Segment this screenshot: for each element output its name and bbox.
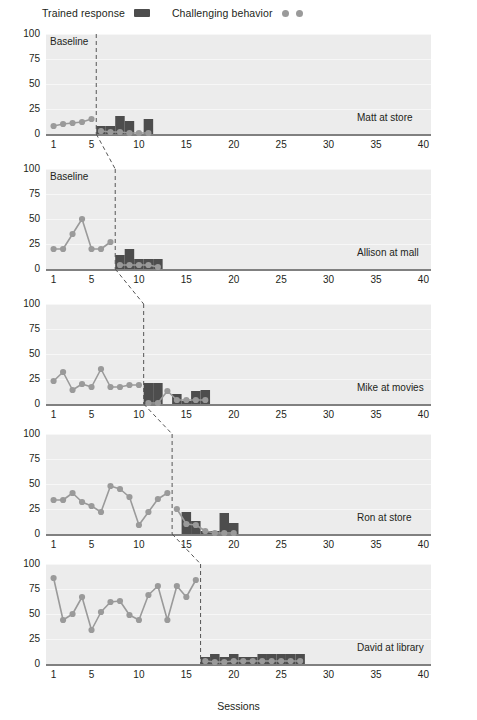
- point-baseline-challenging: [79, 119, 85, 125]
- x-tick-label: 40: [410, 670, 436, 680]
- point-baseline-challenging: [60, 369, 66, 375]
- x-tick-label: 35: [363, 670, 389, 680]
- point-baseline-challenging: [88, 384, 94, 390]
- y-tick-label: 100: [6, 559, 40, 569]
- x-tick-label: 40: [410, 410, 436, 420]
- x-tick-label: 5: [79, 140, 105, 150]
- x-tick-label: 5: [79, 540, 105, 550]
- y-tick-label: 0: [6, 129, 40, 139]
- y-tick-label: 100: [6, 429, 40, 439]
- y-tick-label: 75: [6, 54, 40, 64]
- panel-mike-at-movies: 02550751001510152025303540Mike at movies: [0, 296, 477, 431]
- x-tick-label: 35: [363, 275, 389, 285]
- y-tick-label: 75: [6, 584, 40, 594]
- point-baseline-challenging: [50, 575, 56, 581]
- x-tick-label: 10: [126, 540, 152, 550]
- x-tick-label: 15: [173, 140, 199, 150]
- x-tick-label: 1: [41, 140, 67, 150]
- point-baseline-challenging: [60, 497, 66, 503]
- point-baseline-challenging: [50, 123, 56, 129]
- point-intervention-challenging: [107, 129, 113, 135]
- x-axis-line: [46, 664, 431, 666]
- x-tick-label: 20: [221, 275, 247, 285]
- x-tick-label: 25: [268, 540, 294, 550]
- y-tick-label: 100: [6, 29, 40, 39]
- x-tick-label: 25: [268, 140, 294, 150]
- point-intervention-challenging: [164, 388, 170, 394]
- y-tick-label: 25: [6, 504, 40, 514]
- x-tick-label: 20: [221, 140, 247, 150]
- point-baseline-challenging: [69, 387, 75, 393]
- point-baseline-challenging: [88, 116, 94, 122]
- point-baseline-challenging: [50, 378, 56, 384]
- point-intervention-challenging: [221, 530, 227, 536]
- x-tick-label: 30: [316, 275, 342, 285]
- y-tick-label: 0: [6, 529, 40, 539]
- legend-label-challenging-behavior: Challenging behavior: [172, 7, 273, 19]
- x-tick-label: 35: [363, 140, 389, 150]
- x-tick-label: 15: [173, 410, 199, 420]
- point-intervention-challenging: [231, 658, 237, 664]
- y-tick-label: 75: [6, 189, 40, 199]
- x-tick-label: 10: [126, 140, 152, 150]
- point-baseline-challenging: [79, 499, 85, 505]
- x-tick-label: 15: [173, 275, 199, 285]
- y-tick-label: 0: [6, 659, 40, 669]
- point-intervention-challenging: [145, 262, 151, 268]
- x-tick-label: 10: [126, 275, 152, 285]
- point-baseline-challenging: [117, 598, 123, 604]
- point-intervention-challenging: [145, 130, 151, 136]
- point-baseline-challenging: [98, 509, 104, 515]
- panel-allison-at-mall: 02550751001510152025303540BaselineAlliso…: [0, 161, 477, 296]
- point-baseline-challenging: [126, 494, 132, 500]
- point-baseline-challenging: [79, 216, 85, 222]
- point-intervention-challenging: [212, 530, 218, 536]
- point-intervention-challenging: [155, 264, 161, 270]
- point-intervention-challenging: [145, 400, 151, 406]
- x-tick-label: 1: [41, 410, 67, 420]
- x-tick-label: 5: [79, 670, 105, 680]
- point-baseline-challenging: [60, 246, 66, 252]
- point-intervention-challenging: [174, 506, 180, 512]
- x-tick-label: 20: [221, 670, 247, 680]
- series-layer: [46, 169, 431, 269]
- x-tick-label: 1: [41, 540, 67, 550]
- x-tick-label: 10: [126, 670, 152, 680]
- point-intervention-challenging: [183, 521, 189, 527]
- x-tick-label: 35: [363, 540, 389, 550]
- x-tick-label: 1: [41, 275, 67, 285]
- y-tick-label: 0: [6, 399, 40, 409]
- point-intervention-challenging: [193, 397, 199, 403]
- point-intervention-challenging: [288, 658, 294, 664]
- x-tick-label: 20: [221, 410, 247, 420]
- x-tick-label: 25: [268, 410, 294, 420]
- point-baseline-challenging: [98, 609, 104, 615]
- x-tick-label: 40: [410, 140, 436, 150]
- x-tick-label: 30: [316, 140, 342, 150]
- panel-ron-at-store: 02550751001510152025303540Ron at store: [0, 426, 477, 561]
- y-tick-label: 75: [6, 324, 40, 334]
- point-baseline-challenging: [107, 599, 113, 605]
- y-tick-label: 25: [6, 374, 40, 384]
- y-tick-label: 25: [6, 634, 40, 644]
- x-axis-line: [46, 534, 431, 536]
- point-baseline-challenging: [50, 497, 56, 503]
- y-tick-label: 75: [6, 454, 40, 464]
- legend-item-trained-response: Trained response: [42, 7, 150, 19]
- x-tick-label: 5: [79, 275, 105, 285]
- x-tick-label: 30: [316, 670, 342, 680]
- y-tick-label: 50: [6, 609, 40, 619]
- point-baseline-challenging: [155, 496, 161, 502]
- point-baseline-challenging: [69, 231, 75, 237]
- x-tick-label: 20: [221, 540, 247, 550]
- x-tick-label: 15: [173, 670, 199, 680]
- point-intervention-challenging: [250, 658, 256, 664]
- point-baseline-challenging: [88, 246, 94, 252]
- line-baseline-challenging: [54, 219, 111, 249]
- series-layer: [46, 434, 431, 534]
- point-baseline-challenging: [136, 382, 142, 388]
- point-baseline-challenging: [155, 583, 161, 589]
- point-intervention-challenging: [202, 658, 208, 664]
- point-intervention-challenging: [240, 658, 246, 664]
- point-baseline-challenging: [98, 246, 104, 252]
